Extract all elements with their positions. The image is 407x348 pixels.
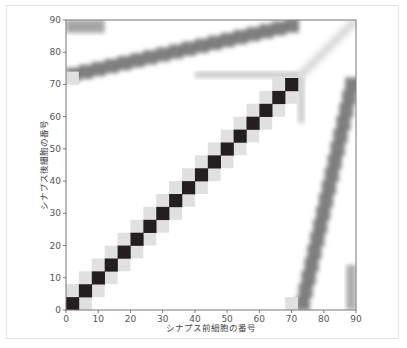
- y-tick-label: 20: [50, 241, 62, 251]
- y-tick-label: 90: [50, 15, 62, 25]
- plot-area: [66, 18, 359, 310]
- x-tick-label: 20: [125, 314, 137, 324]
- y-tick-label: 50: [50, 144, 62, 154]
- y-tick-label: 30: [50, 208, 62, 218]
- y-tick-label: 0: [55, 305, 61, 315]
- y-tick-label: 80: [50, 47, 62, 57]
- x-axis-label: シナプス前細胞の番号: [166, 323, 256, 333]
- diagonal-blocks: [66, 72, 298, 311]
- y-axis-label: シナプス後細胞の番号: [39, 120, 49, 210]
- y-tick-label: 60: [50, 112, 62, 122]
- x-tick-label: 0: [63, 314, 69, 324]
- y-tick-label: 10: [50, 273, 62, 283]
- x-tick-label: 10: [92, 314, 104, 324]
- heatmap-chart: 01020304050607080900102030405060708090 シ…: [0, 0, 407, 348]
- y-tick-label: 70: [50, 79, 62, 89]
- x-tick-label: 70: [286, 314, 298, 324]
- x-tick-label: 90: [350, 314, 362, 324]
- x-tick-label: 80: [318, 314, 330, 324]
- y-tick-label: 40: [50, 176, 62, 186]
